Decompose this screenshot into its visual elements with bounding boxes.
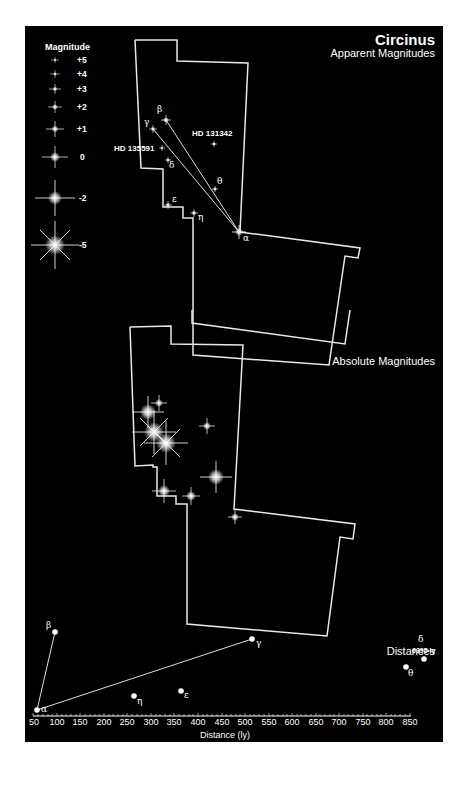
axis-tick-label: 550	[261, 717, 276, 727]
abs-star-7	[152, 479, 176, 503]
abs-star-9	[228, 510, 242, 524]
axis-tick-label: 350	[166, 717, 181, 727]
line-alpha-gamma	[153, 129, 239, 232]
star-epsilon	[164, 201, 172, 209]
abs-star-8	[182, 487, 200, 505]
axis-tick-label: 650	[308, 717, 323, 727]
star-label-delta: δ	[169, 160, 174, 170]
axis-tick-label: 250	[119, 717, 134, 727]
axis-tick-label: 800	[378, 717, 393, 727]
axis-tick-label: 200	[96, 717, 111, 727]
constellation-boundary-upper	[135, 40, 360, 365]
dist-point-epsilon	[178, 688, 184, 694]
legend-label: +5	[77, 55, 87, 65]
chart-title: Circinus	[375, 31, 435, 48]
legend-label: +1	[77, 124, 87, 134]
dist-point-delta	[421, 656, 427, 662]
axis-tick-label: 100	[49, 717, 64, 727]
axis-tick-label: 450	[214, 717, 229, 727]
axis-tick-label: 500	[237, 717, 252, 727]
distance-axis-title: Distance (ly)	[200, 730, 250, 740]
line-alpha-beta-dist	[37, 632, 55, 710]
constellation-diagram	[0, 0, 463, 785]
axis-tick-label: 150	[72, 717, 87, 727]
legend-label: +2	[77, 102, 87, 112]
dist-label-delta: δ	[418, 634, 423, 644]
dist-point-eta	[131, 693, 137, 699]
legend-label: -5	[79, 240, 87, 250]
section-absolute-title: Absolute Magnitudes	[332, 355, 435, 367]
star-label-hd131342: HD 131342	[192, 129, 232, 138]
star-label-theta: θ	[217, 176, 222, 186]
axis-tick-label: 600	[284, 717, 299, 727]
dist-point-alpha	[34, 707, 40, 713]
star-label-gamma: γ	[144, 117, 149, 127]
axis-tick-label: 300	[143, 717, 158, 727]
axis-tick-label: 850	[402, 717, 417, 727]
legend-stars	[31, 57, 79, 269]
star-label-beta: β	[157, 104, 162, 114]
star-label-alpha: α	[243, 233, 249, 243]
abs-star-6	[200, 461, 232, 493]
distance-plot	[33, 629, 427, 716]
star-label-eta: η	[198, 212, 203, 222]
dist-label-epsilon: ε	[184, 690, 189, 700]
dist-label-theta: θ	[408, 668, 413, 678]
axis-tick-label: 50	[29, 717, 39, 727]
star-beta	[161, 115, 171, 125]
axis-tick-label: 700	[331, 717, 346, 727]
dist-point-beta	[52, 629, 58, 635]
axis-tick-label: 400	[190, 717, 205, 727]
constellation-boundary-lower-top	[192, 310, 350, 344]
dist-note-delta: 6395 ly	[412, 647, 435, 654]
legend-label: -2	[79, 193, 87, 203]
section-apparent-title: Apparent Magnitudes	[330, 47, 435, 59]
dist-label-eta: η	[137, 696, 142, 706]
star-label-hd135591: HD 135591	[114, 144, 154, 153]
legend-label: 0	[80, 152, 85, 162]
legend-label: +4	[77, 69, 87, 79]
dist-point-gamma	[249, 636, 255, 642]
abs-star-5	[199, 418, 215, 434]
star-hd131342	[211, 141, 217, 147]
star-eta	[190, 209, 198, 217]
axis-tick-label: 750	[355, 717, 370, 727]
dist-label-beta: β	[46, 620, 51, 630]
dist-label-gamma: γ	[256, 638, 261, 648]
legend-label: +3	[77, 84, 87, 94]
dist-label-alpha: α	[41, 704, 47, 714]
line-alpha-gamma-dist	[37, 639, 252, 710]
star-hd135591	[159, 145, 165, 151]
legend-title: Magnitude	[45, 42, 90, 52]
star-label-epsilon: ε	[172, 194, 177, 204]
